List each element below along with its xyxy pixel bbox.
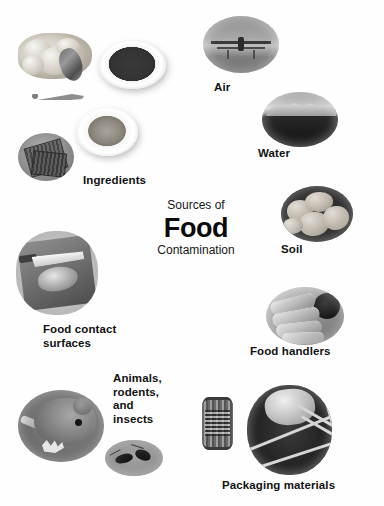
- shoreline-water-photo: [262, 92, 338, 147]
- wrapped-package-photo: [247, 385, 332, 475]
- figure-title: Sources of Food Contamination: [137, 198, 255, 258]
- hands-photo: [266, 287, 344, 345]
- plate-of-dark-food-photo: [98, 41, 166, 89]
- sources-of-food-contamination-figure: Ingredients Air Water Sources of Food Co…: [0, 0, 384, 506]
- canned-goods-photo: [18, 133, 74, 181]
- label-ingredients: Ingredients: [83, 174, 146, 188]
- plate-of-ground-food-photo: [76, 108, 138, 156]
- cutting-board-and-knife-photo: [16, 231, 98, 315]
- label-soil: Soil: [281, 243, 303, 257]
- metal-can-photo: [202, 397, 233, 450]
- title-line-sources-of: Sources of: [137, 198, 255, 213]
- label-air: Air: [214, 81, 230, 95]
- label-packaging-materials: Packaging materials: [222, 479, 335, 493]
- title-line-contamination: Contamination: [137, 243, 255, 258]
- knife-photo: [32, 90, 84, 100]
- label-food-handlers: Food handlers: [250, 345, 331, 359]
- crop-duster-airplane-photo: [203, 16, 279, 73]
- title-line-food: Food: [137, 213, 255, 243]
- potatoes-in-soil-photo: [281, 186, 353, 242]
- cockroaches-photo: [105, 440, 163, 476]
- label-animals-rodents-insects: Animals, rodents, and insects: [113, 372, 162, 426]
- rodent-photo: [18, 390, 104, 462]
- label-food-contact-surfaces: Food contact surfaces: [43, 323, 116, 350]
- label-water: Water: [258, 147, 290, 161]
